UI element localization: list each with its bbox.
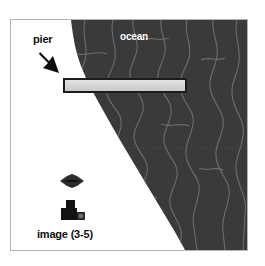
pier-structure [63, 78, 187, 93]
figure-panel: ocean pier image (3-5) [0, 0, 265, 266]
camera-icon [59, 200, 89, 224]
map-frame: ocean pier image (3-5) [10, 19, 248, 251]
ocean-label: ocean [120, 32, 148, 42]
boat-icon [59, 173, 85, 189]
pier-label: pier [33, 34, 52, 45]
arrow-down-right-icon [37, 50, 63, 76]
image-marker-label: image (3-5) [37, 229, 93, 240]
